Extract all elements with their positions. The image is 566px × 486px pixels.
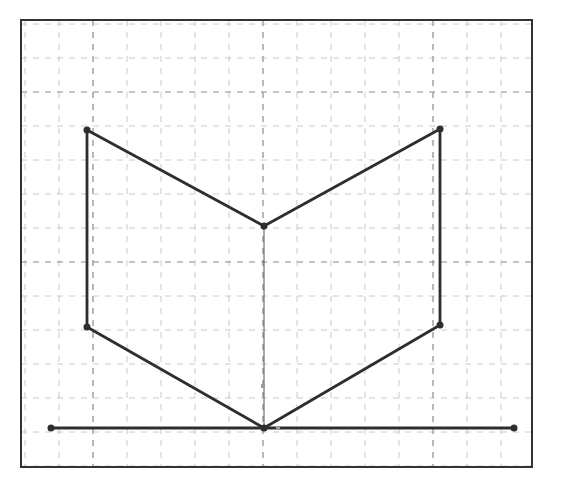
- small-marker: [261, 384, 265, 388]
- point-C: [84, 324, 91, 331]
- diagram-canvas: [0, 0, 566, 486]
- point-D: [437, 322, 444, 329]
- point-L: [48, 425, 55, 432]
- segment-CP: [87, 327, 264, 428]
- point-O: [261, 223, 268, 230]
- point-P: [261, 425, 268, 432]
- segment-AO: [87, 130, 264, 226]
- segment-DP: [264, 325, 440, 428]
- point-A: [84, 127, 91, 134]
- segment-OB: [264, 129, 440, 226]
- point-B: [437, 126, 444, 133]
- small-marker: [276, 426, 280, 430]
- point-R: [511, 425, 518, 432]
- frame-border: [21, 20, 532, 467]
